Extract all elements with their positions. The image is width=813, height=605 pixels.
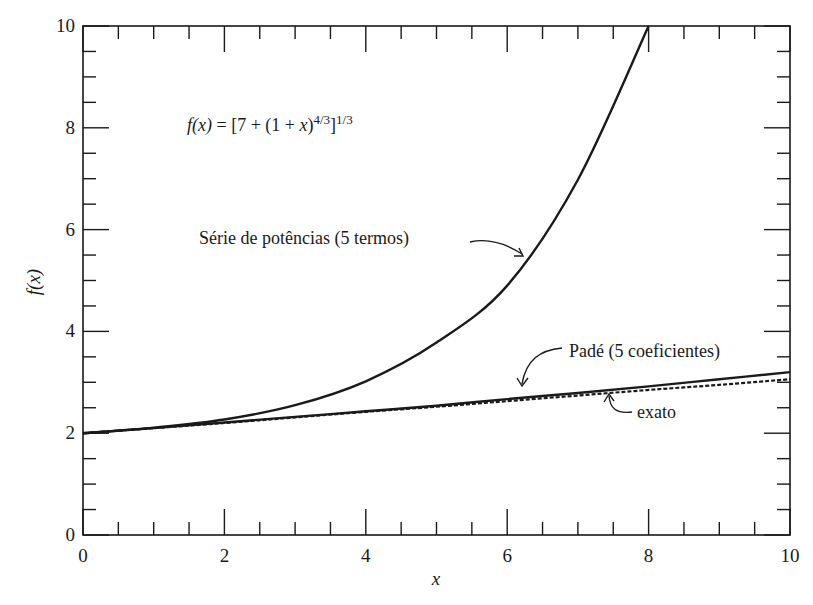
tick-labels: 02468100246810 [56, 15, 800, 566]
y-tick-label: 6 [66, 219, 76, 240]
x-tick-label: 4 [361, 545, 371, 566]
chart: 02468100246810 x f(x) f(x) = [7 + (1 + x… [0, 0, 813, 605]
y-axis-label: f(x) [23, 269, 45, 295]
annotation-pade: Padé (5 coeficientes) [569, 341, 720, 362]
annotation-exato: exato [637, 402, 676, 422]
axis-ticks [83, 26, 790, 535]
annotation-power-series: Série de potências (5 termos) [199, 228, 409, 249]
x-tick-label: 2 [220, 545, 230, 566]
x-tick-label: 10 [781, 545, 800, 566]
equation-var: x [298, 115, 307, 135]
x-tick-label: 6 [502, 545, 512, 566]
y-tick-label: 0 [66, 524, 76, 545]
arrow-power-series [470, 241, 522, 254]
equation-body: = [7 + (1 + [212, 115, 299, 136]
y-tick-label: 4 [66, 320, 76, 341]
plot-frame [83, 26, 790, 535]
equation-exp1: 4/3 [313, 112, 330, 127]
y-tick-label: 10 [56, 15, 75, 36]
equation-label: f(x) = [7 + (1 + x)4/3]1/3 [187, 112, 353, 136]
series-lines [83, 26, 790, 433]
x-axis-label: x [431, 568, 441, 589]
equation-exp2: 1/3 [336, 112, 353, 127]
x-tick-label: 8 [644, 545, 654, 566]
x-tick-label: 0 [78, 545, 88, 566]
y-tick-label: 8 [66, 117, 76, 138]
equation-lhs: f(x) [187, 115, 212, 136]
y-tick-label: 2 [66, 422, 76, 443]
